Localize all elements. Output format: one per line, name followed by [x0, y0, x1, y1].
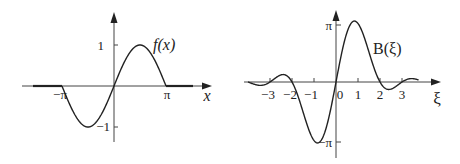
left-tick-label-neg-pi: −π [53, 87, 67, 102]
left-x-label: x [202, 87, 210, 104]
left-tick-label-neg1: −1 [96, 119, 110, 134]
left-plot: 1 −1 −π π x f(x) [22, 12, 212, 142]
left-y-axis-arrow-icon [111, 12, 118, 23]
right-tick-label-neg-pi: −π [318, 135, 332, 150]
right-tick-label-0: 0 [337, 87, 344, 102]
right-tick-label-2: 2 [377, 87, 384, 102]
right-y-axis-arrow-icon [333, 10, 340, 21]
right-tick-label-pi: π [325, 18, 332, 33]
right-tick-label-1: 1 [355, 87, 362, 102]
left-fn-label: f(x) [153, 36, 175, 54]
right-plot: π −π −3 −2 −1 0 1 2 3 ξ B(ξ) [244, 10, 441, 158]
right-tick-label-3: 3 [399, 87, 406, 102]
right-fn-label: B(ξ) [373, 40, 401, 58]
right-tick-label-m1: −1 [304, 87, 318, 102]
left-tick-label-1: 1 [98, 38, 105, 53]
left-tick-label-pi: π [164, 87, 171, 102]
right-x-label: ξ [433, 89, 441, 108]
right-tick-label-m3: −3 [261, 87, 275, 102]
right-x-axis-arrow-icon [431, 79, 441, 86]
right-tick-label-m2: −2 [283, 87, 297, 102]
figure: 1 −1 −π π x f(x) π −π −3 −2 −1 [0, 0, 460, 164]
